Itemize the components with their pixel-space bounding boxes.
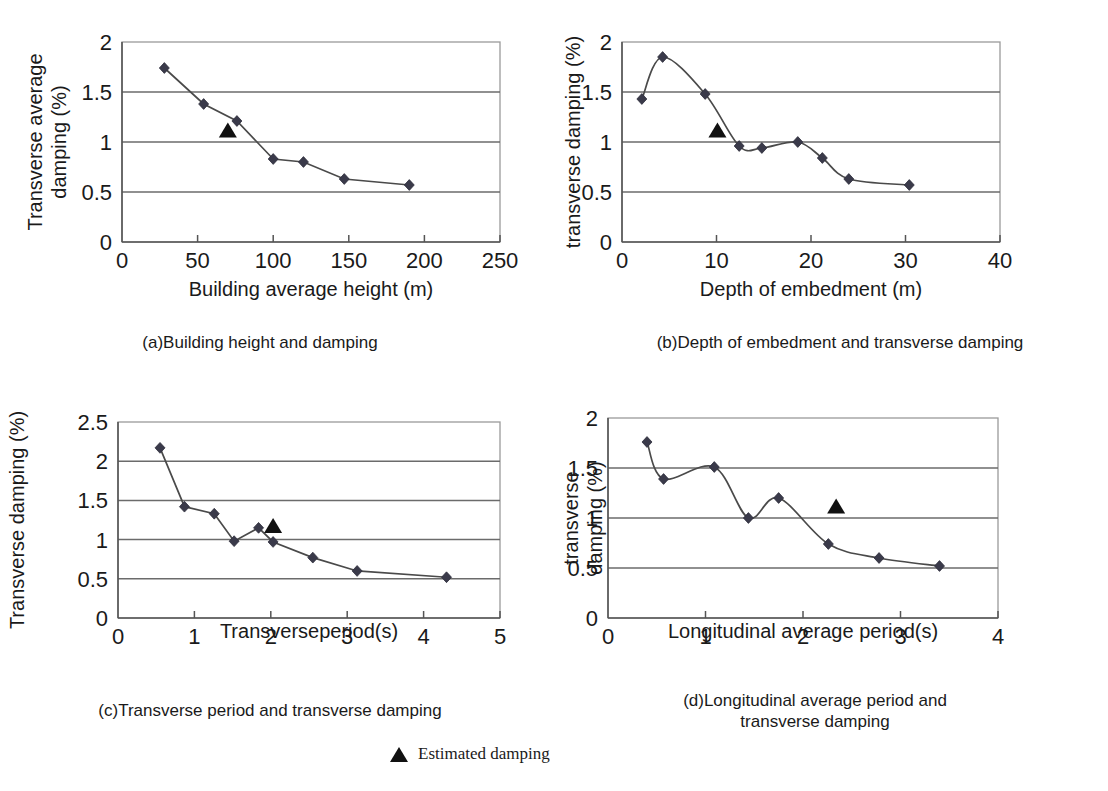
y-axis-title: damping (%) bbox=[48, 85, 70, 198]
data-point-diamond bbox=[179, 501, 189, 512]
chart-b-svg: 01020304000.511.52Depth of embedment (m)… bbox=[554, 0, 1108, 330]
caption-a: (a)Building height and damping bbox=[20, 332, 500, 353]
x-tick-label: 200 bbox=[406, 248, 443, 273]
y-axis-title: transverse bbox=[560, 471, 582, 564]
estimated-damping-triangle-icon bbox=[219, 123, 237, 138]
x-tick-label: 4 bbox=[417, 624, 429, 649]
y-tick-label: 1 bbox=[600, 130, 612, 155]
x-tick-label: 0 bbox=[116, 248, 128, 273]
y-axis-title: Transverse average bbox=[24, 53, 46, 230]
caption-d-line2: transverse damping bbox=[580, 711, 1050, 732]
series-line bbox=[164, 68, 409, 185]
x-tick-label: 150 bbox=[330, 248, 367, 273]
data-point-diamond bbox=[658, 52, 668, 63]
data-point-diamond bbox=[793, 137, 803, 148]
y-axis-title: damping (%) bbox=[584, 461, 606, 574]
y-axis-title: Transverse damping (%) bbox=[6, 411, 28, 629]
x-tick-label: 0 bbox=[602, 624, 614, 649]
data-point-diamond bbox=[774, 493, 784, 504]
data-point-diamond bbox=[442, 572, 452, 583]
data-point-diamond bbox=[308, 552, 318, 563]
y-tick-label: 1.5 bbox=[581, 80, 612, 105]
data-point-diamond bbox=[757, 143, 767, 154]
data-point-diamond bbox=[339, 174, 349, 185]
y-tick-label: 1 bbox=[100, 130, 112, 155]
x-tick-label: 0 bbox=[112, 624, 124, 649]
series-line bbox=[160, 448, 447, 577]
chart-c-svg: 01234500.511.522.5Transverseperiod(s)Tra… bbox=[0, 380, 554, 710]
chart-panel-b: 01020304000.511.52Depth of embedment (m)… bbox=[554, 0, 1108, 330]
x-axis-title: Longitudinal average period(s) bbox=[668, 620, 938, 642]
y-tick-label: 0.5 bbox=[581, 180, 612, 205]
caption-d: (d)Longitudinal average period and trans… bbox=[580, 690, 1050, 733]
y-tick-label: 1.5 bbox=[77, 488, 108, 513]
data-point-diamond bbox=[844, 174, 854, 185]
chart-panel-d: 0123400.511.52Longitudinal average perio… bbox=[554, 380, 1108, 710]
x-tick-label: 5 bbox=[494, 624, 506, 649]
data-point-diamond bbox=[823, 539, 833, 550]
data-point-diamond bbox=[935, 561, 945, 572]
caption-c: (c)Transverse period and transverse damp… bbox=[20, 700, 520, 721]
data-point-diamond bbox=[637, 94, 647, 105]
y-tick-label: 0.5 bbox=[77, 567, 108, 592]
y-tick-label: 0 bbox=[96, 606, 108, 631]
y-tick-label: 1 bbox=[96, 528, 108, 553]
data-point-diamond bbox=[404, 180, 414, 191]
series-line bbox=[647, 442, 940, 566]
chart-panel-a: 05010015020025000.511.52Building average… bbox=[0, 0, 554, 330]
y-tick-label: 2 bbox=[96, 449, 108, 474]
caption-d-line1: (d)Longitudinal average period and bbox=[580, 690, 1050, 711]
y-tick-label: 1.5 bbox=[81, 80, 112, 105]
data-point-diamond bbox=[155, 442, 165, 453]
estimated-damping-triangle-icon bbox=[264, 518, 282, 533]
data-point-diamond bbox=[659, 474, 669, 485]
y-tick-label: 2 bbox=[586, 406, 598, 431]
estimated-damping-triangle-icon bbox=[708, 123, 726, 138]
y-tick-label: 0 bbox=[586, 606, 598, 631]
x-tick-label: 1 bbox=[188, 624, 200, 649]
chart-panel-c: 01234500.511.522.5Transverseperiod(s)Tra… bbox=[0, 380, 554, 710]
data-point-diamond bbox=[709, 462, 719, 473]
x-tick-label: 50 bbox=[185, 248, 209, 273]
series-line bbox=[642, 57, 909, 185]
x-tick-label: 100 bbox=[255, 248, 292, 273]
y-axis-title: transverse damping (%) bbox=[562, 36, 584, 248]
caption-b: (b)Depth of embedment and transverse dam… bbox=[590, 332, 1090, 353]
x-tick-label: 20 bbox=[799, 248, 823, 273]
y-tick-label: 2 bbox=[600, 30, 612, 55]
chart-d-svg: 0123400.511.52Longitudinal average perio… bbox=[554, 380, 1108, 710]
x-axis-title: Transverseperiod(s) bbox=[220, 620, 398, 642]
x-tick-label: 10 bbox=[704, 248, 728, 273]
legend-label: Estimated damping bbox=[418, 744, 550, 764]
triangle-up-icon bbox=[390, 747, 408, 762]
data-point-diamond bbox=[642, 437, 652, 448]
y-tick-label: 2 bbox=[100, 30, 112, 55]
x-axis-title: Building average height (m) bbox=[189, 278, 434, 300]
chart-a-svg: 05010015020025000.511.52Building average… bbox=[0, 0, 554, 330]
legend: Estimated damping bbox=[390, 744, 550, 764]
data-point-diamond bbox=[352, 566, 362, 577]
data-point-diamond bbox=[904, 180, 914, 191]
x-axis-title: Depth of embedment (m) bbox=[700, 278, 922, 300]
figure-root: 05010015020025000.511.52Building average… bbox=[0, 0, 1108, 791]
x-tick-label: 250 bbox=[482, 248, 519, 273]
data-point-diamond bbox=[874, 553, 884, 564]
y-tick-label: 0 bbox=[600, 230, 612, 255]
x-tick-label: 0 bbox=[616, 248, 628, 273]
estimated-damping-triangle-icon bbox=[827, 499, 845, 514]
x-tick-label: 40 bbox=[988, 248, 1012, 273]
y-tick-label: 0 bbox=[100, 230, 112, 255]
x-tick-label: 30 bbox=[893, 248, 917, 273]
data-point-diamond bbox=[298, 157, 308, 168]
x-tick-label: 4 bbox=[992, 624, 1004, 649]
y-tick-label: 0.5 bbox=[81, 180, 112, 205]
y-tick-label: 2.5 bbox=[77, 410, 108, 435]
